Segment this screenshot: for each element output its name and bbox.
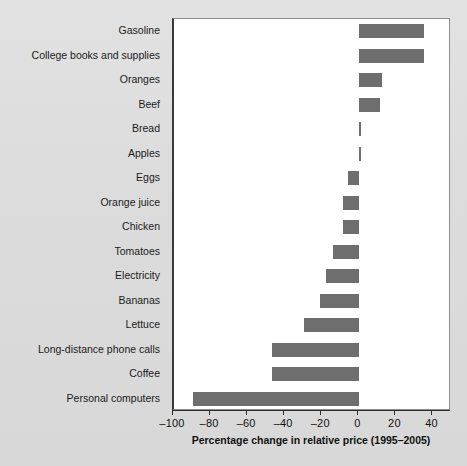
x-tick-mark bbox=[357, 410, 358, 415]
bar[interactable] bbox=[333, 245, 359, 259]
category-label-gasoline: Gasoline bbox=[119, 24, 160, 36]
bar[interactable] bbox=[193, 392, 360, 406]
bar-row bbox=[174, 269, 449, 283]
bar[interactable] bbox=[359, 98, 379, 112]
category-axis-labels: GasolineCollege books and suppliesOrange… bbox=[0, 18, 166, 410]
bar-row bbox=[174, 367, 449, 381]
bar-row bbox=[174, 171, 449, 185]
category-label-coffee: Coffee bbox=[129, 367, 160, 379]
category-label-orange-juice: Orange juice bbox=[100, 196, 160, 208]
bar-row bbox=[174, 343, 449, 357]
x-tick-label: 0 bbox=[337, 417, 377, 429]
bar-row bbox=[174, 392, 449, 406]
bar[interactable] bbox=[359, 49, 424, 63]
x-tick-mark bbox=[246, 410, 247, 415]
bars-layer bbox=[174, 19, 449, 409]
category-label-lettuce: Lettuce bbox=[126, 318, 160, 330]
bar[interactable] bbox=[343, 220, 360, 234]
x-tick-mark bbox=[283, 410, 284, 415]
bar[interactable] bbox=[272, 343, 359, 357]
bar-row bbox=[174, 24, 449, 38]
x-tick-label: –60 bbox=[226, 417, 266, 429]
bar[interactable] bbox=[359, 147, 361, 161]
bar-row bbox=[174, 220, 449, 234]
bar-row bbox=[174, 245, 449, 259]
bar-row bbox=[174, 73, 449, 87]
bar[interactable] bbox=[348, 171, 359, 185]
category-label-tomatoes: Tomatoes bbox=[114, 245, 160, 257]
category-label-personal-computers: Personal computers bbox=[67, 392, 160, 404]
category-label-eggs: Eggs bbox=[136, 171, 160, 183]
x-axis-line bbox=[172, 410, 450, 411]
x-tick-label: 20 bbox=[374, 417, 414, 429]
bar-row bbox=[174, 98, 449, 112]
bar-row bbox=[174, 49, 449, 63]
category-label-long-distance-phone-calls: Long-distance phone calls bbox=[38, 343, 160, 355]
bar[interactable] bbox=[320, 294, 359, 308]
x-tick-label: 40 bbox=[411, 417, 451, 429]
category-label-college-books-and-supplies: College books and supplies bbox=[32, 49, 160, 61]
x-tick-mark bbox=[431, 410, 432, 415]
category-label-bananas: Bananas bbox=[119, 294, 160, 306]
x-tick-label: –100 bbox=[152, 417, 192, 429]
bar-row bbox=[174, 196, 449, 210]
x-axis-title: Percentage change in relative price (199… bbox=[172, 434, 450, 446]
category-label-beef: Beef bbox=[138, 98, 160, 110]
bar[interactable] bbox=[272, 367, 359, 381]
x-tick-label: –40 bbox=[263, 417, 303, 429]
plot-area bbox=[172, 18, 450, 410]
bar[interactable] bbox=[343, 196, 360, 210]
bar[interactable] bbox=[359, 122, 361, 136]
bar-row bbox=[174, 318, 449, 332]
x-tick-mark bbox=[172, 410, 173, 415]
bar-row bbox=[174, 122, 449, 136]
category-label-electricity: Electricity bbox=[115, 269, 160, 281]
bar-row bbox=[174, 147, 449, 161]
category-label-bread: Bread bbox=[132, 122, 160, 134]
category-label-chicken: Chicken bbox=[122, 220, 160, 232]
x-tick-mark bbox=[209, 410, 210, 415]
bar[interactable] bbox=[359, 73, 381, 87]
category-label-apples: Apples bbox=[128, 147, 160, 159]
x-tick-mark bbox=[394, 410, 395, 415]
bar-chart-figure: GasolineCollege books and suppliesOrange… bbox=[0, 0, 467, 466]
x-tick-label: –80 bbox=[189, 417, 229, 429]
x-tick-mark bbox=[320, 410, 321, 415]
category-label-oranges: Oranges bbox=[120, 73, 160, 85]
x-tick-label: –20 bbox=[300, 417, 340, 429]
bar[interactable] bbox=[326, 269, 359, 283]
bar[interactable] bbox=[304, 318, 360, 332]
bar-row bbox=[174, 294, 449, 308]
bar[interactable] bbox=[359, 24, 424, 38]
